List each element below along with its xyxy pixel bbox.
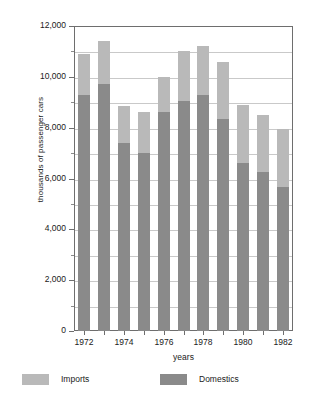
- x-axis-tick-label: 1980: [223, 337, 263, 347]
- chart-legend: ImportsDomestics: [22, 372, 292, 388]
- bar-segment-imports: [257, 115, 269, 172]
- legend-swatch-imports: [22, 374, 49, 385]
- x-axis-tick-label: 1972: [64, 337, 104, 347]
- x-axis-tick: [164, 331, 165, 335]
- y-axis-tick-label: 8,000: [6, 123, 66, 132]
- legend-item-imports[interactable]: Imports: [22, 372, 89, 386]
- bar-segment-domestics: [98, 84, 110, 331]
- bar-segment-domestics: [237, 163, 249, 331]
- bar-segment-imports: [138, 112, 150, 153]
- bar-segment-domestics: [197, 95, 209, 331]
- bar-group: [74, 26, 293, 331]
- x-axis-tick: [203, 331, 204, 335]
- stacked-bar-chart-figure: thousands of passenger cars 02,0004,0006…: [0, 0, 314, 395]
- x-axis-tick: [124, 331, 125, 335]
- bar-1973: [98, 41, 110, 331]
- x-axis-tick: [283, 331, 284, 335]
- bar-1980: [237, 105, 249, 331]
- y-axis-tick-label: 2,000: [6, 275, 66, 284]
- bar-segment-domestics: [257, 172, 269, 331]
- x-axis-tick-label: 1982: [263, 337, 303, 347]
- bar-segment-imports: [178, 51, 190, 101]
- bar-segment-imports: [98, 41, 110, 84]
- bar-segment-domestics: [118, 143, 130, 331]
- y-axis-tick-label: 0: [6, 326, 66, 335]
- x-axis-tick: [184, 331, 185, 335]
- bar-segment-domestics: [158, 112, 170, 331]
- bar-segment-domestics: [138, 153, 150, 331]
- bar-1978: [197, 46, 209, 331]
- x-axis-tick: [263, 331, 264, 335]
- legend-item-domestics[interactable]: Domestics: [160, 372, 239, 386]
- bar-segment-domestics: [78, 95, 90, 331]
- bar-1976: [158, 77, 170, 331]
- bar-segment-imports: [197, 46, 209, 94]
- x-axis-tick-label: 1976: [144, 337, 184, 347]
- y-axis-tick-label: 4,000: [6, 224, 66, 233]
- bar-segment-imports: [118, 106, 130, 143]
- y-axis-tick-label: 6,000: [6, 174, 66, 183]
- x-axis-tick: [84, 331, 85, 335]
- y-axis-tick: [69, 331, 74, 332]
- x-axis-tick: [104, 331, 105, 335]
- bar-1975: [138, 112, 150, 331]
- bar-segment-domestics: [178, 101, 190, 331]
- bar-segment-imports: [158, 77, 170, 113]
- x-axis-tick: [243, 331, 244, 335]
- bar-1982: [277, 129, 289, 331]
- legend-label: Domestics: [199, 374, 239, 384]
- y-axis-tick-label: 10,000: [6, 72, 66, 81]
- bar-1972: [78, 54, 90, 331]
- x-axis-tick-label: 1974: [104, 337, 144, 347]
- bar-segment-imports: [237, 105, 249, 163]
- legend-swatch-domestics: [160, 374, 187, 385]
- bar-1981: [257, 115, 269, 331]
- legend-label: Imports: [61, 374, 89, 384]
- y-axis-title: thousands of passenger cars: [36, 30, 45, 270]
- y-axis-tick-label: 12,000: [6, 21, 66, 30]
- bar-1974: [118, 106, 130, 331]
- bar-1977: [178, 51, 190, 331]
- bar-segment-domestics: [217, 119, 229, 331]
- x-axis-tick: [144, 331, 145, 335]
- bar-1979: [217, 62, 229, 331]
- bar-segment-imports: [277, 129, 289, 187]
- bar-segment-imports: [78, 54, 90, 95]
- bar-segment-imports: [217, 62, 229, 119]
- x-axis-title: years: [74, 352, 293, 362]
- bar-segment-domestics: [277, 187, 289, 331]
- x-axis-tick-label: 1978: [183, 337, 223, 347]
- x-axis-tick: [223, 331, 224, 335]
